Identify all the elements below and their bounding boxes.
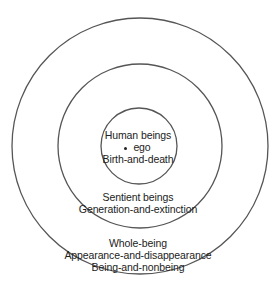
outer-label-being-and-nonbeing: Being-and-nonbeing xyxy=(0,261,276,273)
outer-label-whole-being: Whole-being xyxy=(0,237,276,249)
middle-label-generation-and-extinction: Generation-and-extinction xyxy=(0,203,276,215)
outer-label-appearance-and-disappearance: Appearance-and-disappearance xyxy=(0,249,276,261)
middle-label-sentient-beings: Sentient beings xyxy=(0,191,276,203)
inner-label-human-beings: Human beings xyxy=(0,129,276,141)
inner-label-ego: ego xyxy=(0,141,276,153)
inner-label-birth-and-death: Birth-and-death xyxy=(0,153,276,165)
